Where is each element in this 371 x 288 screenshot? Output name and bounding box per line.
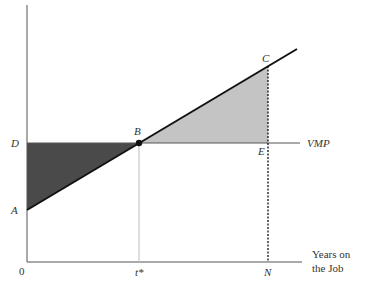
point-b-marker	[136, 140, 142, 146]
diagram-canvas: D A B C E VMP 0 t* N Years on the Job	[0, 0, 371, 288]
tick-n: N	[263, 266, 272, 278]
label-b: B	[134, 125, 141, 137]
label-c: C	[262, 52, 270, 64]
label-e: E	[257, 145, 265, 157]
x-axis-title-line1: Years on	[312, 248, 351, 260]
label-a: A	[10, 204, 18, 216]
x-axis-title-line2: the Job	[312, 262, 344, 274]
label-d: D	[10, 137, 19, 149]
label-vmp: VMP	[307, 137, 330, 149]
origin-label: 0	[19, 265, 25, 277]
tick-t-star: t*	[135, 266, 144, 278]
